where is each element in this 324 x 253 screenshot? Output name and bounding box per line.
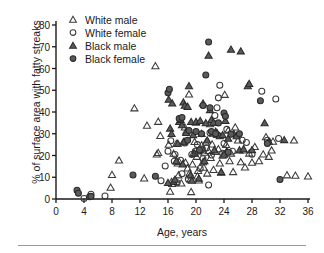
- data-point: [236, 131, 242, 137]
- data-point: [230, 168, 237, 174]
- bottom-divider: [18, 245, 306, 246]
- data-point: [260, 151, 267, 157]
- data-point: [261, 119, 268, 125]
- data-point: [165, 148, 171, 154]
- data-point: [273, 96, 279, 102]
- y-tick-label: 20: [18, 150, 50, 161]
- data-point: [210, 166, 217, 172]
- data-point: [70, 42, 77, 48]
- data-point: [228, 131, 234, 137]
- data-point: [255, 158, 262, 164]
- x-tick-label: 32: [268, 206, 292, 217]
- x-tick-label: 20: [184, 206, 208, 217]
- legend-item-white-male[interactable]: White male: [66, 13, 146, 26]
- data-point: [107, 184, 114, 190]
- filled-circle-icon: [66, 52, 80, 65]
- x-tick-label: 36: [296, 206, 320, 217]
- data-point: [227, 46, 234, 52]
- data-point: [189, 161, 196, 167]
- y-tick-label: 50: [18, 85, 50, 96]
- open-circle-icon: [66, 26, 80, 39]
- data-point: [155, 118, 162, 124]
- legend-label: White male: [85, 14, 138, 26]
- data-point: [130, 172, 136, 178]
- filled-triangle-icon: [66, 39, 80, 52]
- data-point: [179, 114, 185, 120]
- data-point: [70, 56, 76, 62]
- x-tick-label: 28: [240, 206, 264, 217]
- series-white-male: [107, 62, 312, 194]
- data-point: [115, 157, 122, 163]
- data-point: [237, 159, 244, 165]
- x-tick-label: 12: [128, 206, 152, 217]
- data-point: [185, 83, 192, 89]
- y-tick-label: 10: [18, 172, 50, 183]
- legend-label: White female: [85, 27, 146, 39]
- scatter-plot-figure: % of surface area with fatty streaks Age…: [0, 0, 324, 253]
- data-point: [157, 132, 164, 138]
- legend-item-black-female[interactable]: Black female: [66, 52, 146, 65]
- data-point: [88, 193, 94, 199]
- data-point: [217, 82, 223, 88]
- data-point: [232, 124, 239, 130]
- y-tick-label: 70: [18, 41, 50, 52]
- open-triangle-icon: [66, 13, 80, 26]
- data-point: [225, 149, 231, 155]
- data-point: [70, 30, 76, 36]
- y-tick-label: 80: [18, 20, 50, 31]
- data-point: [188, 188, 195, 194]
- data-point: [70, 16, 77, 22]
- data-point: [257, 98, 263, 104]
- data-point: [167, 125, 174, 131]
- data-point: [206, 39, 212, 45]
- data-point: [226, 158, 233, 164]
- data-point: [131, 105, 138, 111]
- data-point: [222, 113, 228, 119]
- data-point: [277, 176, 283, 182]
- data-point: [214, 105, 220, 111]
- data-point: [152, 62, 159, 68]
- data-point: [213, 131, 219, 137]
- y-tick-label: 30: [18, 128, 50, 139]
- data-point: [276, 136, 282, 142]
- data-point: [205, 52, 212, 58]
- data-point: [206, 182, 212, 188]
- data-point: [290, 137, 297, 143]
- data-point: [102, 193, 108, 199]
- legend-label: Black female: [85, 53, 145, 65]
- data-point: [237, 48, 244, 54]
- data-point: [186, 127, 192, 133]
- y-tick-label: 0: [18, 194, 50, 205]
- data-point: [108, 171, 115, 177]
- data-point: [141, 175, 148, 181]
- data-point: [203, 72, 209, 78]
- data-point: [259, 88, 265, 94]
- x-tick-label: 4: [72, 206, 96, 217]
- data-point: [218, 168, 225, 174]
- y-tick-label: 60: [18, 63, 50, 74]
- legend: White maleWhite femaleBlack maleBlack fe…: [66, 13, 146, 65]
- x-tick-label: 16: [156, 206, 180, 217]
- x-tick-label: 8: [100, 206, 124, 217]
- legend-item-white-female[interactable]: White female: [66, 26, 146, 39]
- data-point: [215, 120, 221, 126]
- data-point: [197, 147, 203, 153]
- data-point: [185, 91, 192, 97]
- data-point: [166, 86, 172, 92]
- data-point: [158, 178, 164, 184]
- data-point: [248, 159, 255, 165]
- x-axis-label: Age, years: [56, 226, 308, 238]
- data-point: [199, 131, 205, 137]
- data-point: [207, 105, 213, 111]
- data-point: [200, 102, 206, 108]
- legend-label: Black male: [85, 40, 136, 52]
- legend-item-black-male[interactable]: Black male: [66, 39, 146, 52]
- data-point: [185, 137, 191, 143]
- data-point: [75, 190, 81, 196]
- y-tick-label: 40: [18, 107, 50, 118]
- data-point: [143, 122, 150, 128]
- data-point: [204, 170, 211, 176]
- data-point: [304, 173, 311, 179]
- data-point: [264, 141, 270, 147]
- data-point: [167, 188, 174, 194]
